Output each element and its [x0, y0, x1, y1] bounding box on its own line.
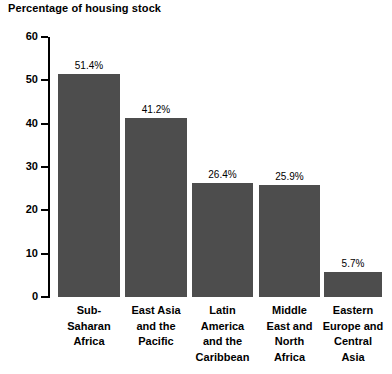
bar [58, 74, 120, 297]
bar-value-label: 26.4% [192, 169, 253, 180]
y-axis-tick-label-wrap: 50 [0, 74, 38, 85]
y-axis-tick-label: 30 [4, 161, 38, 172]
y-axis-tick-label: 40 [4, 118, 38, 129]
y-axis-tick [41, 253, 48, 255]
y-axis-tick-label-wrap: 10 [0, 248, 38, 259]
bar [125, 118, 187, 297]
y-axis-tick-label: 60 [4, 31, 38, 42]
y-axis-tick-label: 50 [4, 74, 38, 85]
category-label: East Asia and the Pacific [118, 303, 194, 350]
category-label: Middle East and North Africa [252, 303, 327, 365]
y-axis-line [48, 37, 50, 298]
plot-area: 0102030405060 51.4%41.2%26.4%25.9%5.7% S… [0, 0, 392, 374]
category-label: Latin America and the Caribbean [185, 303, 260, 365]
bar-value-label: 5.7% [324, 258, 382, 269]
y-axis-tick [41, 36, 48, 38]
y-axis-tick [41, 166, 48, 168]
y-axis-tick-label-wrap: 40 [0, 118, 38, 129]
bar-value-label: 41.2% [125, 104, 187, 115]
y-axis-tick-label: 20 [4, 204, 38, 215]
bar [192, 183, 253, 297]
category-label: Sub- Saharan Africa [51, 303, 127, 350]
bar-value-label: 25.9% [259, 171, 320, 182]
y-axis-tick-label-wrap: 0 [0, 291, 38, 302]
y-axis-tick [41, 209, 48, 211]
y-axis-tick-label: 0 [4, 291, 38, 302]
bar-value-label: 51.4% [58, 60, 120, 71]
y-axis-tick-label-wrap: 30 [0, 161, 38, 172]
y-axis-tick [41, 123, 48, 125]
category-label: Eastern Europe and Central Asia [317, 303, 389, 365]
y-axis-tick [41, 79, 48, 81]
y-axis-tick-label: 10 [4, 248, 38, 259]
y-axis-tick [41, 296, 48, 298]
y-axis-tick-label-wrap: 60 [0, 31, 38, 42]
bar [324, 272, 382, 297]
bar-chart: Percentage of housing stock 010203040506… [0, 0, 392, 374]
y-axis-tick-label-wrap: 20 [0, 204, 38, 215]
bar [259, 185, 320, 297]
